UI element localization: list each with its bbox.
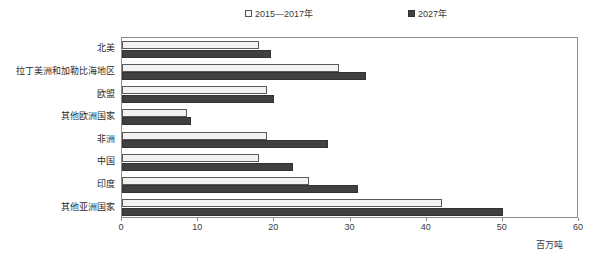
x-tick-mark-50	[502, 218, 503, 221]
category-label-3: 其他欧洲国家	[61, 111, 115, 122]
category-label-2: 欧盟	[97, 88, 115, 99]
bar-2027-2	[122, 95, 274, 103]
legend-label-2027: 2027年	[418, 7, 447, 20]
bar-2027-0	[122, 50, 271, 58]
x-tick-label-0: 0	[118, 222, 123, 232]
bar-2015-2017-0	[122, 41, 259, 49]
x-tick-label-50: 50	[497, 222, 507, 232]
category-label-0: 北美	[97, 43, 115, 54]
value-axis-ticks: 0102030405060	[121, 218, 578, 222]
bar-2027-3	[122, 117, 191, 125]
legend-swatch-dark-icon	[408, 10, 415, 17]
x-tick-mark-60	[578, 218, 579, 221]
chart-legend: 2015—2017年 2027年	[0, 7, 590, 25]
bar-2027-6	[122, 185, 358, 193]
x-tick-mark-30	[350, 218, 351, 221]
x-tick-label-20: 20	[268, 222, 278, 232]
x-tick-mark-20	[273, 218, 274, 221]
legend-swatch-light-icon	[245, 10, 252, 17]
x-tick-label-40: 40	[421, 222, 431, 232]
axis-unit-label: 百万吨	[536, 238, 563, 251]
bar-2027-1	[122, 72, 366, 80]
legend-item-2027: 2027年	[408, 7, 447, 20]
x-tick-mark-10	[197, 218, 198, 221]
category-axis-labels: 北美拉丁美洲和加勒比海地区欧盟其他欧洲国家非洲中国印度其他亚洲国家	[0, 37, 118, 218]
category-label-5: 中国	[97, 156, 115, 167]
bar-2015-2017-6	[122, 177, 309, 185]
category-label-4: 非洲	[97, 133, 115, 144]
x-tick-label-10: 10	[192, 222, 202, 232]
bar-2015-2017-5	[122, 154, 259, 162]
x-tick-label-30: 30	[344, 222, 354, 232]
bar-2015-2017-3	[122, 109, 187, 117]
bar-2027-7	[122, 208, 503, 216]
bar-2015-2017-7	[122, 199, 442, 207]
bar-2015-2017-1	[122, 64, 339, 72]
category-label-6: 印度	[97, 179, 115, 190]
category-label-1: 拉丁美洲和加勒比海地区	[16, 65, 115, 76]
legend-label-2015-2017: 2015—2017年	[255, 7, 313, 20]
plot-area	[121, 37, 578, 218]
bar-2027-5	[122, 163, 293, 171]
x-tick-mark-0	[121, 218, 122, 221]
bars-layer	[122, 38, 577, 217]
bar-2015-2017-4	[122, 132, 267, 140]
bar-2027-4	[122, 140, 328, 148]
legend-item-2015-2017: 2015—2017年	[245, 7, 313, 20]
bar-2015-2017-2	[122, 86, 267, 94]
category-label-7: 其他亚洲国家	[61, 201, 115, 212]
x-tick-mark-40	[426, 218, 427, 221]
x-tick-label-60: 60	[573, 222, 583, 232]
bar-chart: 2015—2017年 2027年 北美拉丁美洲和加勒比海地区欧盟其他欧洲国家非洲…	[0, 0, 590, 261]
